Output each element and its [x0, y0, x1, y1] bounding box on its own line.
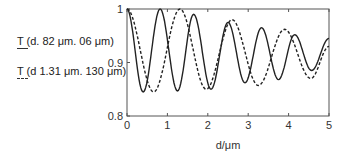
x-tick-label: 5 [326, 119, 332, 131]
x-tick-label: 0 [124, 119, 130, 131]
x-tick-label: 1 [164, 119, 170, 131]
chart-plot: 0123450.80.91 d/μm [0, 0, 345, 154]
series-solid-line [127, 9, 329, 92]
y-tick-label: 1 [117, 3, 123, 15]
x-tick-label: 3 [245, 119, 251, 131]
series-dashed-line [127, 9, 329, 92]
x-axis-label: d/μm [216, 139, 241, 151]
axis-ticks: 0123450.80.91 [108, 3, 332, 131]
x-tick-label: 4 [286, 119, 292, 131]
x-tick-label: 2 [205, 119, 211, 131]
y-tick-label: 0.8 [108, 110, 123, 122]
y-tick-label: 0.9 [108, 57, 123, 69]
